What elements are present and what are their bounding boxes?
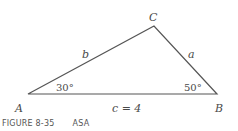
asa-triangle-diagram: C A B b a c = 4 30° 50°: [0, 0, 238, 131]
angle-label-b: 50°: [184, 82, 202, 93]
angle-label-a: 30°: [56, 82, 74, 93]
vertex-label-c: C: [149, 11, 158, 24]
vertex-label-b: B: [214, 102, 223, 115]
figure-number: FIGURE 8-35: [2, 119, 55, 128]
side-label-b: b: [82, 48, 89, 61]
side-label-c: c = 4: [112, 102, 141, 115]
figure-caption-text: ASA: [73, 119, 90, 128]
figure-caption: FIGURE 8-35ASA: [2, 119, 89, 128]
side-label-a: a: [188, 48, 195, 61]
vertex-label-a: A: [14, 102, 23, 115]
